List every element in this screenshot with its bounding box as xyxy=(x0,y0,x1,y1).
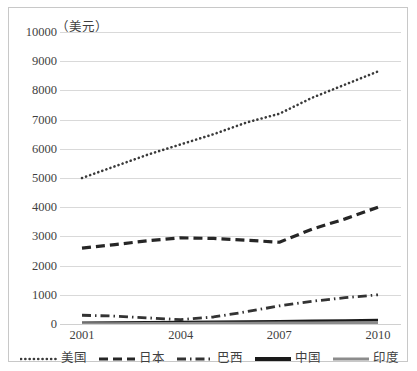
x-axis-tick-label: 2007 xyxy=(249,328,309,342)
y-axis-tick-label: 5000 xyxy=(11,172,57,184)
legend-label: 巴西 xyxy=(217,351,243,365)
legend-label: 中国 xyxy=(295,351,321,365)
y-axis-tick-label: 9000 xyxy=(11,55,57,67)
series-lines xyxy=(60,32,401,324)
chart-legend: 美国日本巴西中国印度 xyxy=(19,348,399,368)
legend-item-印度[interactable]: 印度 xyxy=(332,351,399,365)
legend-item-巴西[interactable]: 巴西 xyxy=(176,351,243,365)
x-axis: 2001200420072010 xyxy=(60,328,401,346)
y-axis-tick-label: 0 xyxy=(11,318,57,330)
legend-swatch-icon xyxy=(176,353,214,364)
legend-swatch-icon xyxy=(98,353,136,364)
legend-label: 日本 xyxy=(139,351,165,365)
y-axis-tick-label: 1000 xyxy=(11,289,57,301)
legend-swatch-icon xyxy=(254,353,292,364)
plot-area xyxy=(60,32,401,324)
x-axis-tick-label: 2004 xyxy=(151,328,211,342)
x-axis-tick-label: 2010 xyxy=(348,328,408,342)
legend-item-美国[interactable]: 美国 xyxy=(20,351,87,365)
series-line-日本 xyxy=(82,207,378,248)
y-axis-tick-label: 8000 xyxy=(11,84,57,96)
series-line-印度 xyxy=(82,323,378,324)
x-axis-tick-label: 2001 xyxy=(52,328,112,342)
legend-label: 美国 xyxy=(61,351,87,365)
y-axis-tick-label: 3000 xyxy=(11,230,57,242)
series-line-巴西 xyxy=(82,295,378,320)
legend-item-中国[interactable]: 中国 xyxy=(254,351,321,365)
y-axis-tick-label: 10000 xyxy=(11,26,57,38)
y-axis-tick-label: 2000 xyxy=(11,260,57,272)
gridline xyxy=(60,324,401,325)
series-line-美国 xyxy=(82,71,378,178)
chart-container: （美元） 10000900080007000600050004000300020… xyxy=(8,7,408,362)
legend-item-日本[interactable]: 日本 xyxy=(98,351,165,365)
y-axis-tick-label: 4000 xyxy=(11,201,57,213)
y-axis-tick-label: 6000 xyxy=(11,143,57,155)
legend-swatch-icon xyxy=(332,353,370,364)
y-axis: 1000090008000700060005000400030002000100… xyxy=(9,32,57,324)
y-axis-tick-label: 7000 xyxy=(11,114,57,126)
legend-label: 印度 xyxy=(373,351,399,365)
legend-swatch-icon xyxy=(20,353,58,364)
